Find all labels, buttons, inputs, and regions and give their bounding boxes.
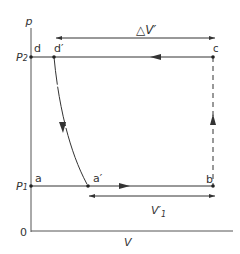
dashed-up-arrow: [210, 114, 216, 125]
p1-label: P1: [16, 180, 28, 193]
x-axis-label: V: [124, 236, 133, 249]
v-prime-1-label: V′1: [151, 204, 166, 219]
label-c: c: [213, 43, 219, 54]
label-b: b: [206, 173, 213, 186]
point-d: [29, 55, 33, 59]
point-a-prime: [86, 184, 90, 188]
origin-label: 0: [20, 226, 27, 239]
point-d-prime: [52, 55, 56, 59]
curve-down-arrow: [59, 122, 66, 133]
delta-v-prime-label: △V′: [136, 23, 156, 37]
expansion-curve-d-prime-to-a-prime: [54, 57, 88, 186]
point-a: [29, 184, 33, 188]
p2-label: P2: [16, 51, 28, 64]
pv-diagram: p V 0 P2 P1 d d′ c a a′ b △V′ V′1: [0, 0, 240, 254]
label-d: d: [34, 42, 41, 55]
p1-direction-arrow: [119, 183, 130, 189]
y-axis-label: p: [25, 15, 33, 28]
label-d-prime: d′: [54, 42, 64, 55]
p2-direction-arrow: [150, 54, 161, 60]
label-a-prime: a′: [93, 172, 103, 185]
point-c: [211, 55, 215, 59]
label-a: a: [35, 172, 42, 185]
